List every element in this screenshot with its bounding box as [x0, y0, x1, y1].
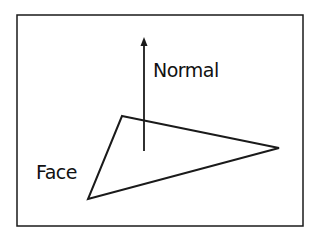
normal-arrowhead-icon — [141, 37, 148, 46]
face-normal-diagram: Normal Face — [0, 0, 318, 237]
face-label: Face — [36, 161, 77, 183]
frame-border — [17, 15, 303, 226]
face-triangle — [88, 116, 279, 199]
normal-label: Normal — [153, 59, 219, 81]
